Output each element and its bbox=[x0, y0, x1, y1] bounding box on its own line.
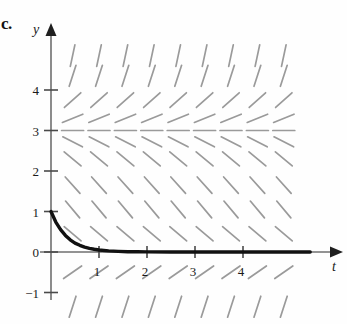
slope-mark bbox=[91, 152, 108, 166]
slope-mark bbox=[122, 296, 129, 317]
slope-mark bbox=[92, 201, 106, 218]
slope-mark bbox=[275, 266, 293, 279]
slope-mark bbox=[145, 201, 159, 218]
slope-mark bbox=[201, 65, 208, 86]
slope-mark bbox=[194, 114, 214, 122]
slope-mark bbox=[168, 114, 188, 122]
slope-mark bbox=[255, 45, 260, 67]
slope-mark bbox=[122, 65, 129, 86]
slope-mark bbox=[228, 65, 235, 86]
slope-mark bbox=[195, 137, 215, 147]
slope-mark bbox=[274, 114, 294, 122]
slope-mark bbox=[249, 93, 265, 108]
slope-mark bbox=[118, 177, 133, 193]
slope-mark bbox=[223, 93, 239, 108]
y-tick-label: 1 bbox=[33, 205, 40, 220]
slope-mark bbox=[69, 296, 76, 317]
slope-mark bbox=[150, 45, 155, 67]
y-tick-label: −1 bbox=[25, 286, 39, 301]
slope-mark bbox=[276, 93, 292, 108]
slope-mark bbox=[97, 45, 102, 67]
slope-mark bbox=[280, 65, 287, 86]
slope-mark bbox=[224, 201, 238, 218]
slope-mark bbox=[91, 227, 108, 241]
slope-mark bbox=[89, 137, 109, 147]
slope-mark bbox=[116, 266, 134, 279]
slope-mark bbox=[123, 45, 128, 67]
slope-mark bbox=[280, 296, 287, 317]
slope-mark bbox=[223, 152, 240, 166]
slope-mark bbox=[148, 296, 155, 317]
slope-mark bbox=[144, 93, 160, 108]
slope-mark bbox=[96, 65, 103, 86]
x-tick-label: 1 bbox=[94, 264, 101, 279]
slope-mark bbox=[223, 227, 240, 241]
slope-mark bbox=[117, 93, 133, 108]
slope-mark bbox=[228, 296, 235, 317]
slope-mark bbox=[198, 201, 212, 218]
slope-mark bbox=[117, 152, 134, 166]
slope-mark bbox=[221, 114, 241, 122]
slope-mark bbox=[221, 137, 241, 147]
slope-mark bbox=[91, 93, 107, 108]
slope-mark bbox=[171, 177, 186, 193]
slope-mark bbox=[276, 177, 291, 193]
solution-curve bbox=[51, 212, 310, 253]
slope-mark bbox=[196, 266, 214, 279]
slope-mark bbox=[142, 137, 162, 147]
axis-ticks bbox=[44, 90, 243, 293]
y-axis-arrowhead bbox=[46, 23, 57, 36]
slope-mark bbox=[282, 45, 287, 67]
slope-mark bbox=[175, 296, 182, 317]
y-tick-label: 0 bbox=[33, 245, 40, 260]
x-axis-label: t bbox=[332, 259, 337, 274]
slope-mark bbox=[168, 137, 188, 147]
slope-mark bbox=[254, 296, 261, 317]
slope-mark bbox=[196, 152, 213, 166]
y-axis-label: y bbox=[31, 22, 40, 37]
slope-mark bbox=[115, 114, 135, 122]
slope-mark bbox=[196, 227, 213, 241]
x-tick-label: 3 bbox=[190, 264, 197, 279]
slope-mark bbox=[170, 93, 186, 108]
slope-mark bbox=[224, 177, 239, 193]
slope-mark bbox=[169, 266, 187, 279]
slope-mark bbox=[275, 227, 292, 241]
slope-mark bbox=[202, 45, 207, 67]
axes-group bbox=[40, 23, 343, 300]
slope-mark bbox=[248, 266, 266, 279]
slope-mark bbox=[117, 227, 134, 241]
slope-mark bbox=[254, 65, 261, 86]
slope-mark bbox=[229, 45, 234, 67]
slope-mark bbox=[249, 152, 266, 166]
slope-mark bbox=[250, 201, 264, 218]
slope-mark bbox=[63, 137, 83, 147]
slope-mark bbox=[70, 45, 75, 67]
slope-mark bbox=[171, 201, 185, 218]
slope-mark bbox=[196, 93, 212, 108]
slope-mark bbox=[247, 114, 267, 122]
plot-canvas: 123443210−1 y t bbox=[0, 0, 347, 324]
slope-mark bbox=[248, 137, 268, 147]
slope-mark bbox=[274, 137, 294, 147]
slope-mark bbox=[249, 227, 266, 241]
slope-mark bbox=[69, 65, 76, 86]
y-tick-label: 2 bbox=[33, 164, 40, 179]
slope-mark bbox=[64, 93, 80, 108]
x-tick-label: 2 bbox=[142, 264, 149, 279]
x-axis-arrowhead bbox=[330, 247, 343, 258]
slope-mark bbox=[250, 177, 265, 193]
slope-mark bbox=[143, 152, 160, 166]
slope-mark bbox=[142, 114, 162, 122]
slope-mark bbox=[170, 227, 187, 241]
slope-mark bbox=[116, 137, 136, 147]
slope-mark bbox=[64, 266, 82, 279]
slope-mark bbox=[64, 152, 81, 166]
slope-mark bbox=[66, 201, 80, 218]
slope-mark bbox=[277, 201, 291, 218]
slope-mark bbox=[65, 177, 80, 193]
slope-mark bbox=[92, 177, 107, 193]
slope-mark bbox=[89, 114, 109, 122]
x-tick-label: 4 bbox=[238, 264, 245, 279]
slope-mark bbox=[275, 152, 292, 166]
